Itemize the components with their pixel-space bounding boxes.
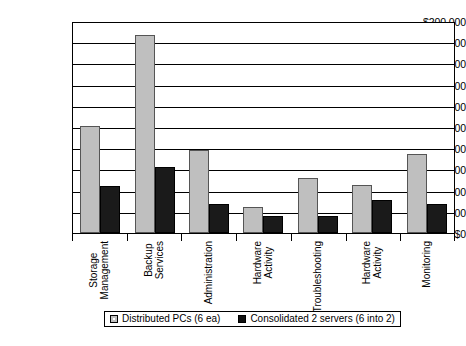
- bar: [298, 178, 318, 233]
- x-axis-label: HardwareActivity: [253, 241, 274, 284]
- bar: [352, 185, 372, 233]
- bar-group: [345, 23, 399, 233]
- bar-group: [182, 23, 236, 233]
- legend-label: Consolidated 2 servers (6 into 2): [250, 314, 395, 324]
- bar: [189, 150, 209, 233]
- plot-area: [72, 22, 455, 234]
- x-axis-tick: [346, 234, 347, 241]
- legend-swatch-icon: [110, 315, 118, 323]
- x-axis-label: BackupServices: [144, 241, 165, 279]
- x-axis-label-line: Monitoring: [422, 241, 433, 288]
- bar-group: [127, 23, 181, 233]
- x-axis-label-line: Hardware: [253, 241, 264, 284]
- bar: [318, 216, 338, 233]
- bar: [155, 167, 175, 233]
- legend-swatch-icon: [238, 315, 246, 323]
- x-axis-label-cell: Administration: [181, 241, 236, 303]
- legend-entry: Distributed PCs (6 ea): [110, 314, 220, 324]
- x-axis-label: HardwareActivity: [362, 241, 383, 284]
- x-axis-category-labels: StorageManagementBackupServicesAdministr…: [72, 241, 455, 303]
- bar-chart: $200,000$180,000$160,000$140,000$120,000…: [0, 0, 466, 346]
- bar: [372, 200, 392, 233]
- x-axis-tick: [72, 234, 73, 241]
- bar: [209, 204, 229, 233]
- bar-groups: [73, 23, 454, 233]
- bar: [100, 186, 120, 233]
- x-axis-label-line: Backup: [144, 241, 155, 279]
- x-axis-label-line: Storage: [89, 241, 100, 299]
- bar: [427, 204, 447, 233]
- x-axis-label-cell: BackupServices: [127, 241, 182, 303]
- x-axis-tick-marks: [72, 234, 455, 241]
- x-axis-label: Monitoring: [422, 241, 433, 288]
- x-axis-label: StorageManagement: [89, 241, 110, 299]
- x-axis-label-cell: HardwareActivity: [236, 241, 291, 303]
- x-axis-tick: [400, 234, 401, 241]
- x-axis-label-line: Activity: [373, 241, 384, 284]
- x-axis-label-line: Administration: [204, 241, 215, 304]
- bar: [135, 35, 155, 233]
- bar: [263, 216, 283, 233]
- legend-entry: Consolidated 2 servers (6 into 2): [238, 314, 395, 324]
- x-axis-label-line: Management: [99, 241, 110, 299]
- bar-group: [291, 23, 345, 233]
- x-axis-label-cell: HardwareActivity: [346, 241, 401, 303]
- x-axis-label-cell: StorageManagement: [72, 241, 127, 303]
- x-axis-label-line: Services: [154, 241, 165, 279]
- x-axis-tick: [454, 234, 455, 241]
- x-axis-tick: [181, 234, 182, 241]
- bar: [80, 126, 100, 233]
- x-axis-label-cell: Troubleshooting: [291, 241, 346, 303]
- x-axis-label: Administration: [204, 241, 215, 304]
- x-axis-label-line: Activity: [264, 241, 275, 284]
- x-axis-label: Troubleshooting: [313, 241, 324, 312]
- x-axis-tick: [127, 234, 128, 241]
- x-axis-label-line: Troubleshooting: [313, 241, 324, 312]
- bar: [243, 207, 263, 234]
- x-axis-tick: [291, 234, 292, 241]
- bar-group: [73, 23, 127, 233]
- x-axis-tick: [236, 234, 237, 241]
- bar-group: [400, 23, 454, 233]
- bar: [407, 154, 427, 234]
- legend-label: Distributed PCs (6 ea): [122, 314, 220, 324]
- bar-group: [236, 23, 290, 233]
- chart-legend: Distributed PCs (6 ea)Consolidated 2 ser…: [104, 311, 401, 327]
- x-axis-label-cell: Monitoring: [400, 241, 455, 303]
